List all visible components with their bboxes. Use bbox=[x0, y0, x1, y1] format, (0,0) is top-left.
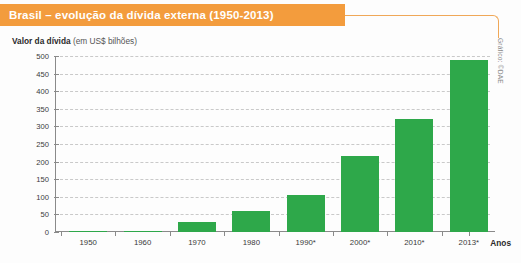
bar-1950 bbox=[69, 231, 107, 233]
y-axis-caption-unit: (em US$ bilhões) bbox=[73, 36, 137, 46]
bar-1980 bbox=[232, 211, 270, 232]
credit-label: Gráfico: ©DAE bbox=[497, 38, 504, 84]
x-axis-tick-label: 1980 bbox=[243, 238, 260, 247]
x-axis-tick-label: 2010* bbox=[404, 238, 424, 247]
y-axis-tick bbox=[54, 144, 59, 145]
x-axis-tick bbox=[279, 232, 280, 236]
bar-1970 bbox=[178, 222, 216, 232]
gridline bbox=[55, 91, 490, 92]
x-axis-tick bbox=[115, 232, 116, 236]
x-axis-tick bbox=[469, 232, 470, 236]
chart-page: Brasil – evolução da dívida externa (195… bbox=[0, 0, 521, 263]
x-axis-tick bbox=[442, 232, 443, 236]
y-axis-tick-label: 300 bbox=[36, 122, 49, 131]
y-axis-tick bbox=[54, 197, 59, 198]
y-axis-tick-label: 200 bbox=[36, 157, 49, 166]
x-axis-tick-label: 2000* bbox=[350, 238, 370, 247]
plot-area: 0501001502002503003504004505001950196019… bbox=[55, 56, 490, 232]
x-axis-tick-label: 2013* bbox=[459, 238, 479, 247]
x-axis-tick bbox=[387, 232, 388, 236]
y-axis-tick bbox=[54, 126, 59, 127]
y-axis-tick-label: 350 bbox=[36, 104, 49, 113]
y-axis-tick-label: 450 bbox=[36, 69, 49, 78]
gridline bbox=[55, 56, 490, 57]
y-axis-tick-label: 500 bbox=[36, 52, 49, 61]
y-axis-tick bbox=[54, 232, 59, 233]
x-axis-tick bbox=[224, 232, 225, 236]
y-axis-tick-label: 250 bbox=[36, 140, 49, 149]
x-axis-tick-label: 1970 bbox=[188, 238, 205, 247]
y-axis-tick bbox=[54, 56, 59, 57]
page-title: Brasil – evolução da dívida externa (195… bbox=[0, 9, 274, 21]
y-axis-tick-label: 50 bbox=[41, 210, 49, 219]
y-axis-caption: Valor da dívida (em US$ bilhões) bbox=[12, 36, 137, 46]
bar-2013 bbox=[450, 60, 488, 232]
x-axis-tick bbox=[170, 232, 171, 236]
bar-2000 bbox=[341, 156, 379, 232]
gridline bbox=[55, 109, 490, 110]
y-axis-caption-bold: Valor da dívida bbox=[12, 36, 71, 46]
y-axis-tick-label: 0 bbox=[45, 228, 49, 237]
y-axis-tick bbox=[54, 109, 59, 110]
x-axis-tick bbox=[333, 232, 334, 236]
y-axis-tick bbox=[54, 214, 59, 215]
x-axis-tick-label: 1960 bbox=[134, 238, 151, 247]
y-axis-tick bbox=[54, 162, 59, 163]
x-axis-tick-label: 1950 bbox=[80, 238, 97, 247]
y-axis-tick bbox=[54, 179, 59, 180]
x-axis-tick bbox=[61, 232, 62, 236]
banner-rule-horizontal bbox=[345, 15, 492, 16]
gridline bbox=[55, 74, 490, 75]
title-banner: Brasil – evolução da dívida externa (195… bbox=[0, 4, 345, 26]
bar-1960 bbox=[124, 231, 162, 233]
x-axis-title: Anos bbox=[490, 238, 511, 248]
y-axis-tick-label: 400 bbox=[36, 87, 49, 96]
x-axis-tick-label: 1990* bbox=[295, 238, 315, 247]
y-axis-tick-label: 100 bbox=[36, 192, 49, 201]
banner-rule-vertical bbox=[498, 22, 499, 38]
bar-2010 bbox=[395, 119, 433, 232]
y-axis-tick bbox=[54, 91, 59, 92]
y-axis-tick bbox=[54, 74, 59, 75]
bar-1990 bbox=[287, 195, 325, 232]
y-axis-tick-label: 150 bbox=[36, 175, 49, 184]
